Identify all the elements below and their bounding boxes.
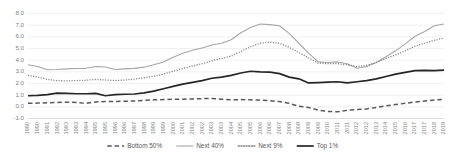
- x-axis-tick-label: 1999: [150, 122, 156, 134]
- x-axis-tick-label: 2005: [247, 122, 253, 134]
- x-axis-tick-label: 2003: [218, 122, 224, 134]
- x-axis-tick-label: 1990: [34, 122, 40, 134]
- y-axis-tick-label: 3.0: [15, 67, 24, 74]
- legend-item[interactable]: Top 1%: [297, 142, 339, 150]
- data-series-group: [28, 24, 444, 112]
- y-axis-tick-label: 5.0: [15, 44, 24, 51]
- x-axis-tick-label: 2009: [315, 122, 321, 134]
- x-axis-tick-label: 1997: [131, 122, 137, 134]
- x-axis-tick-label: 2017: [411, 122, 417, 134]
- legend-item-label: Next 40%: [196, 142, 224, 149]
- x-axis-tick-label: 2015: [392, 122, 398, 134]
- x-axis-tick-label: 2003: [208, 122, 214, 134]
- x-axis-tick-label: 1993: [73, 122, 79, 134]
- x-axis-tick-label: 1993: [63, 122, 69, 134]
- x-axis-tick-label: 2007: [276, 122, 282, 134]
- series-line-bottom-50: [28, 98, 444, 111]
- x-axis-tick-label: 2017: [421, 122, 427, 134]
- series-line-top-1: [28, 70, 444, 96]
- x-axis-tick-label: 1992: [54, 122, 60, 134]
- x-axis-tick-label: 2019: [440, 122, 446, 134]
- line-chart: 8.07.06.05.04.03.02.01.00.0-1.0 19901990…: [0, 0, 449, 155]
- x-axis-tick-label: 2008: [286, 122, 292, 134]
- x-axis-tick-label: 1994: [83, 122, 89, 134]
- y-axis-tick-label: 7.0: [15, 21, 24, 28]
- x-axis-tick-label: 2006: [257, 122, 263, 134]
- x-axis-tick-label: 2016: [402, 122, 408, 134]
- legend-item-label: Top 1%: [317, 142, 339, 150]
- x-axis-tick-label: 2011: [334, 122, 340, 134]
- legend-item-label: Bottom 50%: [127, 142, 162, 149]
- y-axis-tick-label: 8.0: [15, 9, 24, 16]
- x-axis-tick-label: 2013: [373, 122, 379, 134]
- x-axis-tick-label: 2012: [353, 122, 359, 134]
- y-axis-tick-label: 6.0: [15, 32, 24, 39]
- x-axis-tick-label: 2018: [431, 122, 437, 134]
- x-axis-tick-label: 1991: [44, 122, 50, 134]
- x-axis-tick-label: 1996: [121, 122, 127, 134]
- legend-item[interactable]: Next 9%: [238, 142, 282, 149]
- x-axis-tick-label: 2006: [266, 122, 272, 134]
- x-axis-tick-label: 2002: [189, 122, 195, 134]
- x-axis-tick-label: 2008: [295, 122, 301, 134]
- x-axis-tick-labels: 1990199019911992199319931994199519951996…: [24, 122, 446, 134]
- y-axis-tick-label: -1.0: [13, 114, 24, 121]
- x-axis-tick-label: 1999: [160, 122, 166, 134]
- x-axis-tick-label: 2014: [382, 122, 388, 134]
- x-axis-tick-label: 2010: [324, 122, 330, 134]
- y-axis-tick-label: 2.0: [15, 79, 24, 86]
- legend-item[interactable]: Next 40%: [176, 142, 224, 149]
- x-axis-tick-label: 2011: [344, 122, 350, 134]
- x-axis-tick-label: 2009: [305, 122, 311, 134]
- chart-legend: Bottom 50%Next 40%Next 9%Top 1%: [107, 142, 338, 150]
- chart-canvas: 8.07.06.05.04.03.02.01.00.0-1.0 19901990…: [0, 0, 449, 155]
- x-axis-tick-label: 2002: [199, 122, 205, 134]
- x-axis-tick-label: 1990: [24, 122, 30, 134]
- series-line-next-40: [28, 24, 444, 70]
- x-axis-tick-label: 2012: [363, 122, 369, 134]
- x-axis-tick-label: 1996: [112, 122, 118, 134]
- legend-item[interactable]: Bottom 50%: [107, 142, 162, 149]
- y-axis-tick-label: 4.0: [15, 56, 24, 63]
- y-axis-tick-label: 0.0: [15, 102, 24, 109]
- legend-item-label: Next 9%: [258, 142, 282, 149]
- y-axis-tick-labels: 8.07.06.05.04.03.02.01.00.0-1.0: [13, 9, 24, 121]
- x-axis-tick-label: 2005: [237, 122, 243, 134]
- x-axis-tick-label: 1995: [92, 122, 98, 134]
- x-axis-tick-label: 2000: [170, 122, 176, 134]
- x-axis-tick-label: 1998: [141, 122, 147, 134]
- y-axis-tick-label: 1.0: [15, 91, 24, 98]
- x-axis-tick-label: 1995: [102, 122, 108, 134]
- x-axis-tick-label: 2001: [179, 122, 185, 134]
- x-axis-tick-label: 2004: [228, 122, 234, 134]
